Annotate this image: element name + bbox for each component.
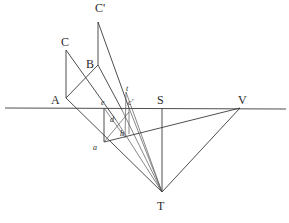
line-B-T — [122, 110, 162, 192]
line-A-T — [66, 98, 162, 192]
perspective-diagram: C' C B A e t c' S V d a b T — [0, 0, 289, 223]
line-t-T — [126, 92, 162, 192]
label-b: b — [120, 129, 124, 138]
label-S: S — [157, 93, 164, 107]
label-C: C — [61, 35, 69, 49]
line-V-T — [162, 108, 240, 192]
line-t-c — [125, 92, 126, 138]
label-A: A — [51, 93, 60, 107]
label-T: T — [157, 199, 165, 213]
line-Cprime-diag — [98, 22, 129, 108]
label-c-prime: c' — [128, 98, 134, 107]
line-a-V — [104, 108, 240, 142]
label-e: e — [101, 98, 105, 107]
label-V: V — [238, 93, 247, 107]
label-C-prime: C' — [95, 1, 105, 15]
label-B: B — [86, 57, 94, 71]
label-t: t — [126, 84, 129, 93]
label-a: a — [93, 143, 97, 152]
horizon-line — [5, 108, 286, 109]
line-Cprime-T — [129, 108, 162, 192]
